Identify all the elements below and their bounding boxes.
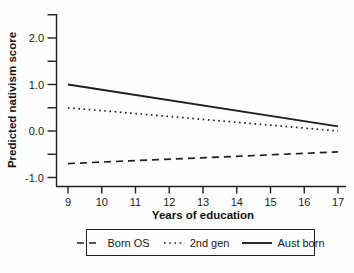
- chart-series-lines: [68, 85, 338, 164]
- y-tick-label: 1.0: [29, 79, 44, 91]
- legend-item-aust-born: Aust born: [242, 237, 324, 249]
- nativism-education-chart: 2.01.00.0-1.0 91011121314151617 Years of…: [0, 0, 354, 273]
- chart-plot-area: 2.01.00.0-1.0 91011121314151617 Years of…: [0, 0, 354, 226]
- y-tick-label: 2.0: [29, 32, 44, 44]
- x-axis-tick-labels: 91011121314151617: [65, 196, 344, 208]
- x-axis-title: Years of education: [152, 209, 254, 221]
- x-tick-label: 14: [231, 196, 243, 208]
- x-tick-label: 16: [298, 196, 310, 208]
- solid-line-sample: [242, 240, 272, 246]
- y-axis-tick-labels: 2.01.00.0-1.0: [25, 32, 44, 184]
- y-axis: 2.01.00.0-1.0: [25, 14, 56, 187]
- y-tick-label: 0.0: [29, 125, 44, 137]
- x-tick-label: 11: [130, 196, 141, 208]
- y-axis-title: Predicted nativism score: [6, 32, 18, 168]
- x-tick-label: 12: [163, 196, 175, 208]
- y-tick-label: -1.0: [25, 172, 44, 184]
- x-axis: 91011121314151617: [56, 187, 346, 209]
- x-tick-label: 17: [332, 196, 344, 208]
- x-tick-label: 15: [264, 196, 276, 208]
- x-tick-label: 13: [197, 196, 209, 208]
- dashed-line-sample: [76, 240, 102, 246]
- x-tick-label: 9: [65, 196, 71, 208]
- legend-label-2nd-gen: 2nd gen: [190, 237, 230, 249]
- y-axis-ticks: [48, 15, 57, 178]
- legend-item-born-os: Born OS: [76, 237, 149, 249]
- x-tick-label: 10: [96, 196, 108, 208]
- dotted-line-sample: [163, 240, 185, 246]
- x-axis-ticks: [68, 187, 338, 194]
- legend-box: Born OS 2nd gen Aust born: [86, 229, 315, 256]
- line-born-os: [68, 152, 338, 164]
- legend-label-aust-born: Aust born: [277, 237, 324, 249]
- legend-item-2nd-gen: 2nd gen: [163, 237, 230, 249]
- legend-label-born-os: Born OS: [107, 237, 149, 249]
